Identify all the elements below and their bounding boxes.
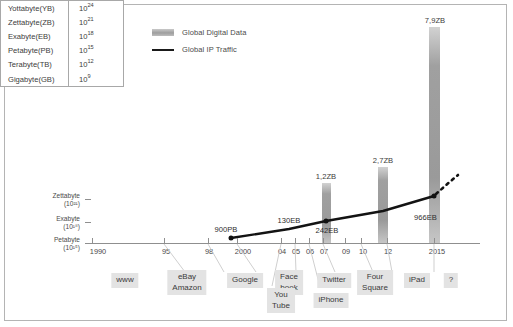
milestone-youtube[interactable]: You Tube <box>267 288 295 313</box>
milestone-foursquare[interactable]: Four Square <box>357 270 393 295</box>
chart-stage: Global Digital Data Global IP Traffic Yo… <box>0 0 513 327</box>
milestone-label-line1: You <box>272 290 290 301</box>
milestone-label-line1: Face <box>280 272 298 283</box>
milestone-label-line2: Tube <box>272 301 290 312</box>
milestone-label: iPhone <box>319 295 344 304</box>
milestone-ipad[interactable]: iPad <box>404 273 430 288</box>
milestone-ebay-amazon[interactable]: eBay Amazon <box>167 270 206 295</box>
milestone-label: iPad <box>409 275 425 284</box>
milestone-unknown[interactable]: ? <box>444 273 458 288</box>
milestone-label: ? <box>449 275 453 284</box>
milestone-label-line2: Square <box>362 283 388 294</box>
milestone-label: Twitter <box>322 275 346 284</box>
milestone-google[interactable]: Google <box>227 273 263 288</box>
milestone-label-line2: Amazon <box>172 283 201 294</box>
milestone-label-line1: Four <box>362 272 388 283</box>
milestone-iphone[interactable]: iPhone <box>314 293 349 308</box>
milestone-www[interactable]: www <box>111 273 138 288</box>
milestone-label: www <box>116 275 133 284</box>
milestone-label-line1: eBay <box>172 272 201 283</box>
milestone-twitter[interactable]: Twitter <box>317 273 351 288</box>
milestone-label: Google <box>232 275 258 284</box>
